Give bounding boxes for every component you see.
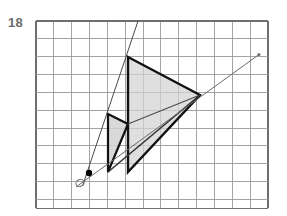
ray-endpoint-dot	[258, 53, 261, 56]
geometry-diagram: Dilation of a triangle from center O on …	[0, 0, 287, 216]
worksheet-figure: 18 Dilation of a triangle from center O …	[0, 0, 287, 216]
center-point-O	[86, 170, 92, 176]
